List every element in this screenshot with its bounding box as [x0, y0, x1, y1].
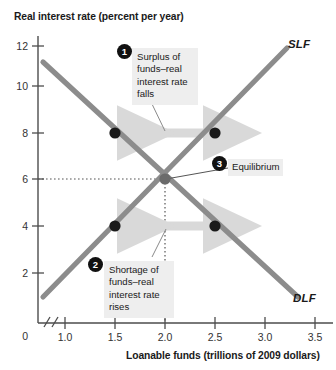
- equilibrium-label: Equilibrium: [228, 159, 283, 176]
- marker-slf-1-5-4: [109, 220, 120, 231]
- marker-dlf-1-5-8: [109, 127, 120, 138]
- annotation-1-line-3: interest rate: [137, 76, 193, 88]
- callout-1-leader: [152, 104, 165, 131]
- annotation-callout-shortage: Shortage of funds–real interest rate ris…: [104, 261, 174, 318]
- annotation-2-line-2: funds–real: [109, 276, 169, 288]
- annotation-1-line-4: falls: [137, 88, 193, 100]
- curve-label-dlf: DLF: [293, 292, 316, 304]
- annotation-2-line-1: Shortage of: [109, 264, 169, 276]
- annotation-badge-2: 2: [88, 257, 103, 272]
- curve-label-slf: SLF: [288, 38, 310, 50]
- chart-figure: Real interest rate (percent per year) Lo…: [0, 0, 336, 370]
- callout-2-leader: [152, 229, 166, 257]
- marker-dlf-2-5-4: [209, 220, 220, 231]
- annotation-1-line-2: funds–real: [137, 63, 193, 75]
- annotation-badge-3: 3: [212, 156, 227, 171]
- x-axis-break-mark: [44, 317, 58, 327]
- annotation-2-line-4: rises: [109, 301, 169, 313]
- annotation-1-line-1: Surplus of: [137, 51, 193, 63]
- marker-slf-2-5-8: [209, 127, 220, 138]
- marker-equilibrium: [159, 173, 170, 184]
- annotation-badge-1: 1: [117, 44, 132, 59]
- annotation-callout-surplus: Surplus of funds–real interest rate fall…: [132, 48, 198, 105]
- annotation-2-line-3: interest rate: [109, 289, 169, 301]
